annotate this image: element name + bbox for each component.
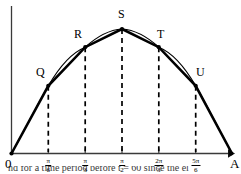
point-label-s: S bbox=[118, 8, 125, 20]
vertex-dot-q bbox=[46, 84, 50, 88]
vertex-dot-r bbox=[83, 45, 87, 49]
vertex-dot-s bbox=[120, 27, 124, 31]
point-label-r: R bbox=[74, 28, 82, 40]
vertex-dot-u bbox=[194, 84, 198, 88]
vertex-dot-origin bbox=[9, 151, 13, 155]
x-tick-numerator: 5π bbox=[191, 157, 200, 166]
point-label-t: T bbox=[157, 28, 164, 40]
figure-container: Q R S T U 0 A π 6 π 3 π 2 2π 3 5π 6 bbox=[0, 0, 241, 174]
dropped-vertical-lines bbox=[48, 29, 195, 152]
cut-off-caption-text: nd for a time period before t = 60 since… bbox=[8, 166, 189, 173]
caption-strip: nd for a time period before t = 60 since… bbox=[0, 166, 241, 174]
point-label-q: Q bbox=[36, 66, 45, 78]
x-tick-numerator: π bbox=[46, 157, 52, 166]
x-tick-numerator: π bbox=[119, 157, 125, 166]
x-tick-numerator: 2π bbox=[154, 157, 163, 166]
vertex-dot-a bbox=[229, 151, 233, 155]
point-label-u: U bbox=[196, 66, 205, 78]
sine-curve-plot bbox=[0, 0, 241, 174]
vertex-dot-t bbox=[157, 45, 161, 49]
x-tick-numerator: π bbox=[82, 157, 88, 166]
